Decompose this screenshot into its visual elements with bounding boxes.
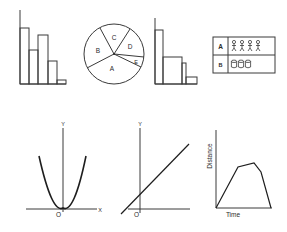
slice-divider [114, 29, 130, 54]
pie-chart: A B C D E [84, 24, 144, 84]
bar [155, 30, 163, 84]
bar [182, 63, 186, 84]
straight-line-graph: Y O [121, 121, 190, 218]
x-axis-label: X [98, 207, 102, 213]
row-label-b: B [219, 62, 223, 68]
distance-time-line [216, 163, 271, 208]
y-axis-label: Y [61, 121, 65, 127]
bar [186, 77, 197, 84]
bar [163, 57, 182, 84]
slice-label-c: C [112, 34, 117, 41]
person-icon [232, 40, 236, 51]
slice-label-b: B [96, 47, 100, 54]
bar [29, 50, 38, 84]
cylinder-icon [238, 60, 243, 68]
histogram-1 [20, 10, 66, 84]
origin-label: O [56, 211, 61, 218]
origin-label: O [134, 211, 139, 218]
y-axis-label: Distance [206, 143, 213, 169]
row-label-a: A [218, 43, 223, 50]
slice-label-d: D [128, 43, 133, 50]
cylinder-icon [231, 60, 236, 68]
cylinder-icon [245, 60, 250, 68]
person-icon [248, 40, 252, 51]
pictogram-table: A B [213, 37, 275, 73]
slice-divider [100, 28, 114, 54]
distance-time-graph: Distance Time [206, 130, 272, 218]
histogram-2 [155, 18, 197, 84]
person-icon [256, 40, 260, 51]
bar [48, 61, 57, 84]
chart-collection: A B C D E A B [0, 0, 287, 232]
person-icon [240, 40, 244, 51]
x-axis-label: Time [226, 211, 241, 218]
slice-label-e: E [134, 59, 138, 65]
parabola-graph: Y X O [26, 121, 102, 218]
pie-center [113, 53, 115, 55]
bar [57, 80, 66, 84]
bar [38, 35, 48, 84]
line-plot [121, 144, 189, 214]
bar [20, 28, 29, 84]
slice-label-a: A [110, 65, 115, 72]
y-axis-label: Y [138, 121, 142, 127]
